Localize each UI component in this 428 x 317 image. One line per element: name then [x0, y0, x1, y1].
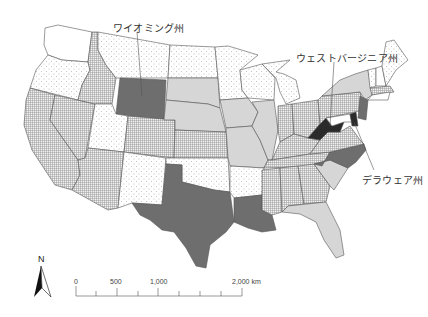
state-new-mexico	[118, 152, 166, 208]
state-north-dakota	[168, 45, 218, 78]
label-wyoming: ワイオミング州	[113, 20, 184, 35]
label-delaware: デラウェア州	[362, 172, 423, 187]
state-kansas	[174, 130, 228, 158]
north-label: N	[38, 254, 45, 264]
us-states-map	[0, 0, 428, 317]
state-mississippi	[262, 168, 282, 215]
state-new-jersey	[358, 96, 368, 120]
scale-label-0: 0	[74, 278, 78, 285]
label-west-virginia: ウェストバージニア州	[296, 50, 398, 65]
scale-label-2000: 2,000 km	[232, 278, 261, 285]
state-florida	[282, 202, 344, 258]
state-arkansas	[230, 166, 264, 198]
state-colorado	[124, 116, 175, 158]
scale-label-500: 500	[110, 278, 122, 285]
scale-label-1000: 1,000	[150, 278, 168, 285]
state-delaware	[350, 112, 358, 126]
north-arrow-icon	[34, 266, 51, 297]
scale-bar	[76, 286, 242, 296]
